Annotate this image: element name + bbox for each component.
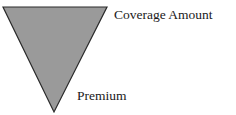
premium-label: Premium — [77, 89, 127, 103]
coverage-amount-label: Coverage Amount — [114, 8, 213, 22]
coverage-premium-diagram: Coverage Amount Premium — [0, 0, 236, 115]
